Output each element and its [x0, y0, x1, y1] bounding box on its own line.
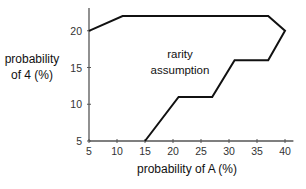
region-boundary-line: [89, 16, 285, 141]
x-tick-label: 5: [86, 145, 92, 157]
y-axis-title-line-1: probability: [5, 52, 60, 66]
y-tick-label: 15: [70, 62, 82, 74]
chart: 5101520253035405101520 rarity assumption…: [0, 0, 306, 189]
y-tick-label: 10: [70, 98, 82, 110]
x-tick-label: 15: [139, 145, 151, 157]
y-axis-title-line-2: of 4 (%): [11, 68, 53, 82]
x-tick-label: 30: [223, 145, 235, 157]
tick-labels: 5101520253035405101520: [70, 25, 291, 157]
annotation-line-2: assumption: [151, 64, 210, 76]
y-tick-label: 5: [76, 135, 82, 147]
y-tick-label: 20: [70, 25, 82, 37]
annotation-line-1: rarity: [167, 48, 193, 60]
x-axis-title: probability of A (%): [137, 162, 237, 176]
x-tick-label: 40: [279, 145, 291, 157]
x-tick-label: 10: [111, 145, 123, 157]
x-tick-label: 20: [167, 145, 179, 157]
x-tick-label: 25: [195, 145, 207, 157]
x-tick-label: 35: [251, 145, 263, 157]
